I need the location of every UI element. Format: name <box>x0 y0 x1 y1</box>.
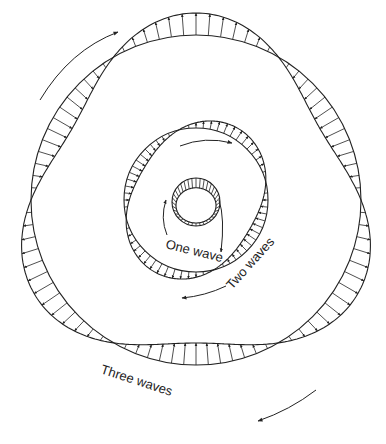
displacement-arrow-icon <box>156 140 160 146</box>
displacement-arrow-icon <box>175 190 179 197</box>
displacement-arrow-icon <box>188 179 189 189</box>
displacement-arrow-icon <box>184 221 186 223</box>
displacement-arrow-icon <box>350 260 368 267</box>
displacement-arrow-icon <box>140 154 148 161</box>
three-wave-arrow-bottom-right-icon <box>258 390 316 421</box>
displacement-arrow-icon <box>308 321 317 331</box>
rotation-arrows <box>40 32 316 421</box>
displacement-arrow-icon <box>206 181 208 190</box>
displacement-arrow-icon <box>122 47 124 51</box>
displacement-arrow-icon <box>250 229 260 234</box>
displacement-arrow-icon <box>133 166 143 171</box>
displacement-arrow-icon <box>38 151 55 156</box>
displacement-arrow-icon <box>325 128 344 137</box>
displacement-arrow-icon <box>244 239 252 246</box>
displacement-arrow-icon <box>252 149 259 154</box>
displacement-arrow-icon <box>208 14 210 35</box>
displacement-arrow-icon <box>143 29 147 42</box>
displacement-arrow-icon <box>207 343 209 364</box>
displacement-arrow-icon <box>315 107 333 119</box>
displacement-arrow-icon <box>256 218 265 221</box>
displacement-arrow-icon <box>337 151 354 156</box>
displacement-arrow-icon <box>345 272 364 281</box>
displacement-arrow-icon <box>299 79 308 89</box>
displacement-arrow-icon <box>350 175 360 176</box>
displacement-arrow-icon <box>168 134 169 137</box>
displacement-arrow-icon <box>260 164 265 166</box>
wave-mode-diagram: One wave Two waves Three waves <box>0 0 386 444</box>
displacement-arrow-icon <box>184 181 186 190</box>
displacement-arrow-icon <box>247 234 256 240</box>
displacement-arrow-icon <box>213 190 217 197</box>
displacement-arrow-icon <box>164 267 168 277</box>
displacement-arrow-icon <box>299 329 305 337</box>
displacement-arrow-icon <box>178 217 181 218</box>
displacement-arrow-icon <box>34 283 53 294</box>
displacement-arrow-icon <box>67 97 83 109</box>
displacement-arrow-icon <box>124 344 126 349</box>
one-wave-mode <box>172 178 220 226</box>
displacement-arrow-icon <box>138 251 145 258</box>
displacement-arrow-icon <box>304 88 317 100</box>
displacement-arrow-icon <box>215 194 219 200</box>
displacement-arrow-icon <box>173 194 177 200</box>
displacement-arrow-icon <box>145 149 152 156</box>
displacement-arrow-icon <box>339 283 358 294</box>
displacement-arrow-icon <box>228 259 230 264</box>
displacement-arrow-icon <box>147 345 151 358</box>
displacement-arrow-icon <box>293 71 299 79</box>
displacement-arrow-icon <box>209 184 212 192</box>
displacement-arrow-icon <box>236 131 242 140</box>
displacement-arrow-icon <box>357 237 370 240</box>
displacement-arrow-icon <box>320 118 339 129</box>
displacement-arrow-icon <box>128 234 133 236</box>
displacement-arrow-icon <box>325 303 341 315</box>
displacement-arrow-icon <box>229 344 233 361</box>
displacement-arrow-icon <box>169 17 172 37</box>
two-wave-arrow-bottom-icon <box>182 286 226 298</box>
displacement-arrow-icon <box>266 344 268 349</box>
displacement-arrow-icon <box>162 137 164 142</box>
displacement-arrow-icon <box>332 293 350 305</box>
displacement-arrow-icon <box>188 272 189 279</box>
displacement-arrow-icon <box>156 22 160 39</box>
displacement-arrow-icon <box>125 186 133 188</box>
displacement-arrow-icon <box>136 160 145 166</box>
displacement-arrow-icon <box>261 206 268 207</box>
displacement-arrow-icon <box>310 97 326 109</box>
displacement-arrow-icon <box>93 71 99 79</box>
displacement-arrow-icon <box>241 345 245 358</box>
displacement-arrow-icon <box>203 121 204 128</box>
displacement-arrow-icon <box>203 222 204 225</box>
displacement-arrow-icon <box>53 118 72 129</box>
displacement-arrow-icon <box>203 179 204 189</box>
displacement-arrow-icon <box>22 249 38 254</box>
displacement-arrow-icon <box>182 14 184 35</box>
displacement-arrow-icon <box>132 38 136 47</box>
displacement-arrow-icon <box>150 144 155 151</box>
displacement-arrow-icon <box>178 187 181 195</box>
displacement-arrow-icon <box>256 156 262 160</box>
displacement-arrow-icon <box>33 175 43 176</box>
displacement-arrow-icon <box>200 178 201 188</box>
displacement-arrow-icon <box>258 212 266 214</box>
displacement-arrow-icon <box>192 178 193 188</box>
displacement-arrow-icon <box>127 228 130 229</box>
displacement-arrow-icon <box>230 127 235 137</box>
displacement-arrow-icon <box>222 264 223 267</box>
displacement-arrow-icon <box>286 64 289 68</box>
three-wave-arrow-top-left-icon <box>40 32 118 100</box>
one-wave-deformed-curve <box>176 188 216 223</box>
displacement-arrow-icon <box>52 303 68 315</box>
displacement-arrow-icon <box>188 222 189 225</box>
displacement-arrow-icon <box>211 187 214 195</box>
displacement-arrow-icon <box>180 271 182 279</box>
displacement-arrow-icon <box>245 29 249 42</box>
displacement-arrow-icon <box>136 345 140 354</box>
displacement-arrow-icon <box>359 225 368 226</box>
displacement-arrow-icon <box>233 22 237 39</box>
displacement-arrow-icon <box>210 121 212 129</box>
displacement-arrow-icon <box>130 240 136 244</box>
displacement-arrow-icon <box>42 140 61 147</box>
displacement-arrow-icon <box>232 254 236 260</box>
